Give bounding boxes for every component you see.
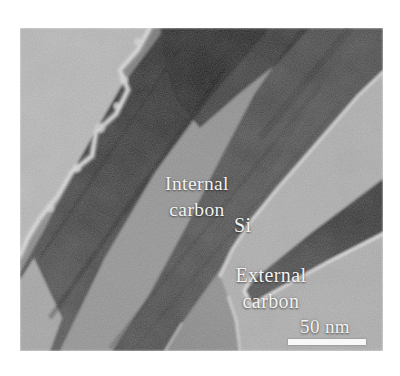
internal-carbon-line1: Internal [145,171,249,197]
external-carbon-label: External carbon [221,262,321,314]
scale-bar-label: 50 nm [284,316,366,338]
external-carbon-line2: carbon [221,288,321,314]
external-carbon-line1: External [221,262,321,288]
figure-canvas: Internal carbon Si External carbon 50 nm [0,0,400,376]
si-label: Si [234,213,251,237]
scale-bar [288,339,366,345]
